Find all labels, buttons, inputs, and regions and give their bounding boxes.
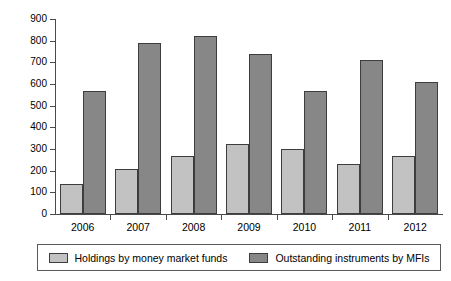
bars-layer xyxy=(0,0,451,238)
legend-label-outstanding: Outstanding instruments by MFIs xyxy=(275,252,429,264)
y-axis-tick-mark xyxy=(50,106,55,107)
bar-2008-series-0 xyxy=(171,156,194,214)
legend-swatch-icon-outstanding xyxy=(249,253,268,263)
x-axis-tick-mark xyxy=(221,215,222,220)
x-axis-tick-mark xyxy=(166,215,167,220)
y-axis-tick-mark xyxy=(50,171,55,172)
x-axis-tick-labels: 2006200720082009201020112012 xyxy=(0,219,451,238)
x-axis-tick-label: 2008 xyxy=(166,221,221,233)
chart-legend: Holdings by money market funds Outstandi… xyxy=(37,244,441,271)
y-axis-tick-mark xyxy=(50,149,55,150)
legend-entry-holdings: Holdings by money market funds xyxy=(49,245,228,270)
bar-2007-series-0 xyxy=(115,169,138,215)
y-axis-tick-mark xyxy=(50,214,55,215)
bar-2010-series-0 xyxy=(281,149,304,214)
x-axis-tick-label: 2007 xyxy=(110,221,165,233)
y-axis-tick-mark xyxy=(50,41,55,42)
y-axis-tick-mark xyxy=(50,192,55,193)
x-axis-tick-label: 2012 xyxy=(388,221,443,233)
plot-area: 0100200300400500600700800900 20062007200… xyxy=(0,0,451,238)
y-axis-tick-mark xyxy=(50,19,55,20)
bar-2012-series-0 xyxy=(392,156,415,215)
legend-label-holdings: Holdings by money market funds xyxy=(75,252,228,264)
bar-chart: 0100200300400500600700800900 20062007200… xyxy=(0,0,451,281)
x-axis-tick-mark xyxy=(332,215,333,220)
bar-2010-series-1 xyxy=(304,91,327,215)
bar-2006-series-0 xyxy=(60,184,83,214)
x-axis-tick-mark xyxy=(277,215,278,220)
bar-2008-series-1 xyxy=(194,36,217,214)
y-axis-tick-mark xyxy=(50,84,55,85)
legend-entry-outstanding: Outstanding instruments by MFIs xyxy=(249,245,429,270)
x-axis-tick-label: 2006 xyxy=(55,221,110,233)
x-axis-tick-label: 2011 xyxy=(332,221,387,233)
y-axis-tick-mark xyxy=(50,127,55,128)
y-axis-tick-mark xyxy=(50,62,55,63)
bar-2011-series-0 xyxy=(337,164,360,214)
x-axis-tick-label: 2009 xyxy=(221,221,276,233)
bar-2011-series-1 xyxy=(360,60,383,214)
x-axis-tick-mark xyxy=(110,215,111,220)
bar-2009-series-0 xyxy=(226,144,249,214)
bar-2006-series-1 xyxy=(83,91,106,215)
bar-2012-series-1 xyxy=(415,82,438,214)
bar-2009-series-1 xyxy=(249,54,272,214)
x-axis-tick-mark xyxy=(388,215,389,220)
bar-2007-series-1 xyxy=(138,43,161,214)
legend-swatch-icon-holdings xyxy=(49,253,68,263)
x-axis-tick-label: 2010 xyxy=(277,221,332,233)
